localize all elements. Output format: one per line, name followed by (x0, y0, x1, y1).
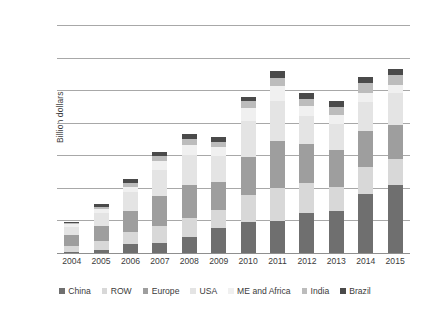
legend-swatch-icon (228, 288, 234, 294)
bar-segment-me-and-africa[interactable] (299, 106, 314, 116)
bar-segment-row[interactable] (211, 210, 226, 228)
bar-segment-me-and-africa[interactable] (241, 108, 256, 120)
bar-column[interactable] (351, 25, 380, 253)
stacked-bar[interactable] (388, 69, 403, 253)
bar-segment-europe[interactable] (358, 131, 373, 167)
stacked-bar[interactable] (182, 134, 197, 253)
bar-segment-usa[interactable] (64, 227, 79, 235)
bar-segment-row[interactable] (123, 232, 138, 244)
stacked-bar[interactable] (94, 204, 109, 253)
bar-segment-row[interactable] (388, 159, 403, 185)
legend-item-row[interactable]: ROW (102, 286, 132, 296)
bar-segment-brazil[interactable] (270, 71, 285, 78)
legend-item-brazil[interactable]: Brazil (340, 286, 371, 296)
chart-legend: ChinaROWEuropeUSAME and AfricaIndiaBrazi… (0, 286, 430, 296)
stacked-bar[interactable] (123, 179, 138, 253)
bar-segment-row[interactable] (152, 226, 167, 244)
bar-segment-europe[interactable] (182, 185, 197, 218)
bar-segment-me-and-africa[interactable] (152, 161, 167, 170)
bar-segment-europe[interactable] (123, 211, 138, 232)
bar-segment-china[interactable] (152, 243, 167, 253)
bar-segment-usa[interactable] (211, 156, 226, 182)
bar-segment-row[interactable] (241, 195, 256, 222)
bar-segment-me-and-africa[interactable] (388, 85, 403, 93)
bar-segment-india[interactable] (329, 107, 344, 115)
legend-item-china[interactable]: China (59, 286, 90, 296)
bar-segment-usa[interactable] (123, 192, 138, 210)
bar-segment-usa[interactable] (270, 101, 285, 141)
bar-segment-china[interactable] (388, 185, 403, 253)
bar-segment-me-and-africa[interactable] (182, 145, 197, 155)
bar-column[interactable] (57, 25, 86, 253)
stacked-bar[interactable] (152, 152, 167, 253)
bar-segment-usa[interactable] (299, 116, 314, 145)
bar-segment-me-and-africa[interactable] (329, 115, 344, 124)
bar-segment-china[interactable] (270, 221, 285, 253)
stacked-bar[interactable] (329, 101, 344, 253)
bar-segment-europe[interactable] (241, 157, 256, 195)
legend-item-india[interactable]: India (302, 286, 330, 296)
bar-segment-usa[interactable] (94, 213, 109, 226)
stacked-bar[interactable] (358, 77, 373, 253)
bar-segment-india[interactable] (270, 78, 285, 86)
bar-column[interactable] (116, 25, 145, 253)
bar-segment-usa[interactable] (329, 124, 344, 150)
bar-column[interactable] (380, 25, 409, 253)
bar-segment-row[interactable] (182, 218, 197, 237)
bar-segment-row[interactable] (358, 167, 373, 194)
stacked-bar[interactable] (211, 137, 226, 253)
bar-segment-china[interactable] (241, 222, 256, 253)
bar-column[interactable] (292, 25, 321, 253)
stacked-bar[interactable] (270, 71, 285, 253)
x-axis-tick-label: 2015 (380, 256, 409, 270)
bar-segment-china[interactable] (123, 244, 138, 253)
stacked-bar[interactable] (64, 222, 79, 253)
bar-segment-europe[interactable] (211, 182, 226, 210)
x-axis-tick-label: 2005 (86, 256, 115, 270)
bar-segment-usa[interactable] (182, 155, 197, 184)
bar-column[interactable] (145, 25, 174, 253)
bar-segment-europe[interactable] (299, 144, 314, 183)
legend-label: India (311, 286, 330, 296)
bar-segment-europe[interactable] (388, 125, 403, 159)
bar-segment-usa[interactable] (388, 93, 403, 124)
bar-segment-india[interactable] (358, 83, 373, 93)
bar-segment-row[interactable] (270, 188, 285, 221)
bar-segment-usa[interactable] (358, 102, 373, 131)
bar-segment-europe[interactable] (329, 150, 344, 186)
legend-item-me-and-africa[interactable]: ME and Africa (228, 286, 291, 296)
bar-segment-row[interactable] (299, 183, 314, 212)
bar-segment-india[interactable] (388, 75, 403, 85)
bar-segment-usa[interactable] (241, 121, 256, 157)
stacked-bar[interactable] (299, 93, 314, 253)
bar-column[interactable] (86, 25, 115, 253)
legend-item-europe[interactable]: Europe (143, 286, 180, 296)
bar-segment-me-and-africa[interactable] (270, 86, 285, 100)
bar-segment-row[interactable] (329, 187, 344, 212)
legend-item-usa[interactable]: USA (190, 286, 217, 296)
bar-column[interactable] (204, 25, 233, 253)
bar-segment-china[interactable] (329, 211, 344, 253)
bar-segment-europe[interactable] (152, 196, 167, 226)
bar-segment-europe[interactable] (94, 226, 109, 242)
bar-segment-usa[interactable] (152, 170, 167, 196)
bar-column[interactable] (233, 25, 262, 253)
bar-segment-me-and-africa[interactable] (358, 93, 373, 102)
bar-segment-europe[interactable] (64, 235, 79, 246)
legend-label: ROW (111, 286, 132, 296)
bar-segment-china[interactable] (358, 194, 373, 253)
bar-segment-china[interactable] (299, 213, 314, 253)
bar-segment-china[interactable] (94, 250, 109, 253)
bar-segment-china[interactable] (211, 228, 226, 253)
bar-segment-row[interactable] (94, 241, 109, 249)
bar-segment-china[interactable] (64, 252, 79, 253)
bar-segment-europe[interactable] (270, 141, 285, 188)
stacked-bar[interactable] (241, 97, 256, 253)
bar-column[interactable] (263, 25, 292, 253)
bar-segment-me-and-africa[interactable] (211, 147, 226, 156)
bar-segment-china[interactable] (182, 237, 197, 253)
bar-segment-india[interactable] (241, 101, 256, 108)
x-axis-tick-label: 2004 (57, 256, 86, 270)
bar-column[interactable] (322, 25, 351, 253)
bar-column[interactable] (175, 25, 204, 253)
